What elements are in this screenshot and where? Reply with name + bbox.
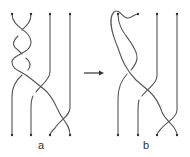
right-arrow-icon bbox=[84, 71, 104, 76]
panel-label-b: b bbox=[143, 139, 149, 151]
panel-label-a: a bbox=[38, 139, 44, 151]
braid-diagram bbox=[0, 0, 190, 157]
braid-a bbox=[11, 13, 71, 136]
braid-b bbox=[111, 11, 178, 136]
